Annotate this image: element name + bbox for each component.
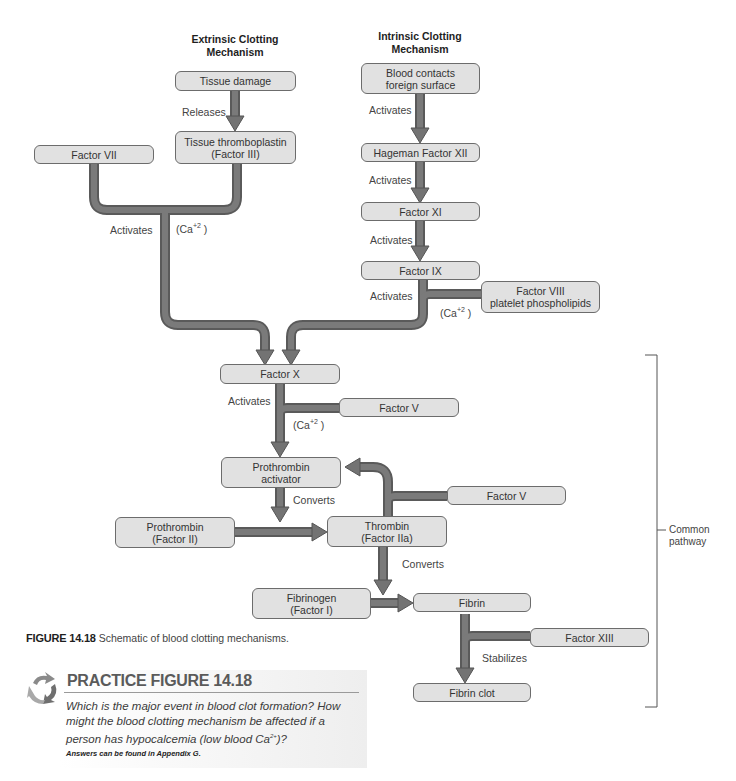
calcium-label-intrinsic: (Ca+2 ) <box>440 306 471 319</box>
thrombin-line2: (Factor IIa) <box>361 532 412 544</box>
calcium-label-common: (Ca+2 ) <box>293 418 324 431</box>
ca-superscript: +2 <box>310 418 318 425</box>
blood-contacts-line2: foreign surface <box>386 79 455 91</box>
thrombin-line1: Thrombin <box>365 520 409 532</box>
factor-viii-box: Factor VIII platelet phospholipids <box>481 281 600 313</box>
converts-label-1: Converts <box>293 494 335 506</box>
converts-label-2: Converts <box>402 558 444 570</box>
blood-contacts-line1: Blood contacts <box>386 67 455 79</box>
question-superscript: 2+ <box>270 733 277 739</box>
factor-vii-box: Factor VII <box>34 145 154 164</box>
activates-label-3: Activates <box>370 234 413 246</box>
ca-superscript: +2 <box>457 306 465 313</box>
intrinsic-heading: Intrinsic Clotting Mechanism <box>365 30 475 56</box>
ca-text: (Ca <box>176 223 193 235</box>
tissue-damage-box: Tissue damage <box>175 71 296 91</box>
figure-caption-text: Schematic of blood clotting mechanisms. <box>99 632 289 644</box>
prothrombin-activator-box: Prothrombin activator <box>221 457 341 488</box>
fibrin-clot-box: Fibrin clot <box>413 683 531 702</box>
factor-xi-box: Factor XI <box>361 202 480 221</box>
fibrinogen-line2: (Factor I) <box>290 604 333 616</box>
activates-label-2: Activates <box>369 174 412 186</box>
fibrin-box: Fibrin <box>413 593 531 612</box>
tissue-thromboplastin-box: Tissue thromboplastin (Factor III) <box>175 131 296 164</box>
factor-viii-line1: Factor VIII <box>516 285 564 297</box>
common-pathway-label: Common pathway <box>669 524 710 548</box>
blood-contacts-box: Blood contacts foreign surface <box>361 63 480 94</box>
prothrombin-line2: (Factor II) <box>152 533 198 545</box>
factor-v-box-1: Factor V <box>339 398 459 417</box>
factor-ix-box: Factor IX <box>361 261 480 280</box>
recycle-arrows-icon <box>25 670 61 706</box>
factor-xiii-box: Factor XIII <box>530 628 649 647</box>
factor-v-box-2: Factor V <box>447 486 566 505</box>
thrombin-box: Thrombin (Factor IIa) <box>327 516 447 547</box>
connector-arrows <box>0 0 736 781</box>
ca-close: ) <box>318 419 324 431</box>
ca-close: ) <box>465 307 471 319</box>
activates-label-extrinsic: Activates <box>110 224 153 236</box>
question-text-end: )? <box>277 733 287 745</box>
ca-text: (Ca <box>440 307 457 319</box>
releases-label: Releases <box>182 106 226 118</box>
activates-label-1: Activates <box>369 104 412 116</box>
factor-viii-line2: platelet phospholipids <box>490 297 591 309</box>
figure-caption: FIGURE 14.18 Schematic of blood clotting… <box>26 632 289 644</box>
ca-text: (Ca <box>293 419 310 431</box>
extrinsic-heading: Extrinsic Clotting Mechanism <box>180 33 290 59</box>
fibrinogen-line1: Fibrinogen <box>287 592 337 604</box>
activates-label-factor-x: Activates <box>228 395 271 407</box>
answers-note: Answers can be found in Appendix G. <box>66 749 201 758</box>
tissue-thromboplastin-line2: (Factor III) <box>211 148 259 160</box>
practice-title: PRACTICE FIGURE 14.18 <box>67 672 252 690</box>
hageman-factor-xii-box: Hageman Factor XII <box>361 143 480 162</box>
common-pathway-line2: pathway <box>669 536 710 548</box>
prothrombin-box: Prothrombin (Factor II) <box>115 517 235 548</box>
prothrombin-line1: Prothrombin <box>146 521 203 533</box>
ca-close: ) <box>201 223 207 235</box>
ca-superscript: +2 <box>193 222 201 229</box>
tissue-thromboplastin-line1: Tissue thromboplastin <box>184 136 286 148</box>
activates-label-4: Activates <box>370 290 413 302</box>
common-pathway-line1: Common <box>669 524 710 536</box>
figure-number: FIGURE 14.18 <box>26 632 96 644</box>
stabilizes-label: Stabilizes <box>482 652 527 664</box>
question-text: Which is the major event in blood clot f… <box>66 700 340 745</box>
factor-x-box: Factor X <box>220 364 340 384</box>
prothrombin-activator-line1: Prothrombin <box>252 461 309 473</box>
practice-question: Which is the major event in blood clot f… <box>66 699 356 747</box>
fibrinogen-box: Fibrinogen (Factor I) <box>252 588 371 619</box>
calcium-label-extrinsic: (Ca+2 ) <box>176 222 207 235</box>
prothrombin-activator-line2: activator <box>261 473 301 485</box>
practice-divider <box>64 692 359 693</box>
